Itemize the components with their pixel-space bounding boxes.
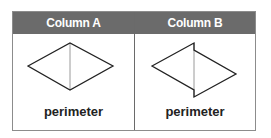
column-b-header: Column B <box>135 12 255 34</box>
column-b: Column B perimeter <box>135 12 255 130</box>
column-a-header: Column A <box>13 12 134 34</box>
column-a: Column A perimeter <box>13 12 135 130</box>
comparison-table: Column A perimeter Column B perimeter <box>12 11 256 131</box>
column-a-label: perimeter <box>13 104 134 119</box>
column-b-label: perimeter <box>135 104 255 119</box>
